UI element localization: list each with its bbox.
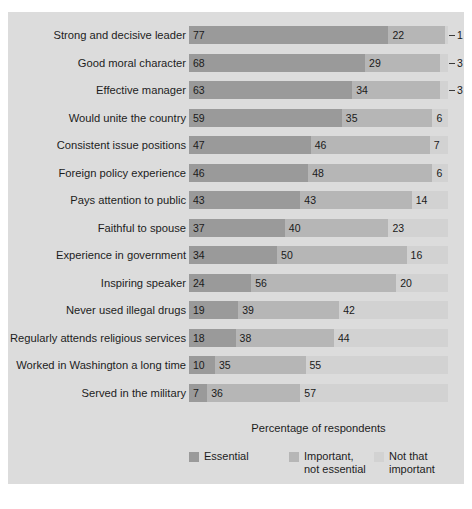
segment-value: 24 [193, 274, 205, 292]
segment-not-important: 42 [339, 301, 448, 319]
segment-important: 36 [207, 384, 300, 402]
segment-value-outside: 3 [457, 54, 463, 72]
segment-essential: 43 [189, 191, 300, 209]
legend-item: Not that important [374, 450, 435, 476]
segment-value: 22 [392, 26, 404, 44]
segment-not-important: 20 [396, 274, 448, 292]
row-label: Would unite the country [8, 109, 186, 127]
chart-row: Strong and decisive leader77221 [8, 26, 464, 54]
row-label: Consistent issue positions [8, 136, 186, 154]
segment-value: 34 [356, 81, 368, 99]
chart-row: Worked in Washington a long time103555 [8, 356, 464, 384]
segment-essential: 10 [189, 356, 215, 374]
segment-essential: 24 [189, 274, 251, 292]
legend-label: Essential [204, 450, 249, 463]
segment-not-important: 44 [334, 329, 448, 347]
chart-row: Faithful to spouse374023 [8, 219, 464, 247]
stacked-bar: 434314 [189, 191, 448, 209]
segment-value: 48 [312, 164, 324, 182]
segment-important: 43 [300, 191, 411, 209]
chart-panel: Strong and decisive leader77221Good mora… [8, 12, 464, 484]
chart-row: Effective manager63343 [8, 81, 464, 109]
segment-value: 38 [240, 329, 252, 347]
segment-value: 6 [436, 109, 442, 127]
chart-row: Foreign policy experience46486 [8, 164, 464, 192]
segment-not-important [440, 81, 448, 99]
segment-value: 42 [343, 301, 355, 319]
segment-value: 10 [193, 356, 205, 374]
legend-swatch [289, 452, 299, 462]
segment-important: 29 [365, 54, 440, 72]
segment-value: 37 [193, 219, 205, 237]
segment-essential: 37 [189, 219, 285, 237]
segment-value: 19 [193, 301, 205, 319]
value-leader-line [449, 35, 455, 36]
segment-essential: 59 [189, 109, 342, 127]
segment-value: 35 [346, 109, 358, 127]
value-leader-line [449, 90, 455, 91]
segment-value: 39 [242, 301, 254, 319]
segment-value: 43 [193, 191, 205, 209]
row-label: Faithful to spouse [8, 219, 186, 237]
segment-value: 18 [193, 329, 205, 347]
segment-important: 22 [388, 26, 445, 44]
segment-value: 50 [281, 246, 293, 264]
segment-value: 46 [193, 164, 205, 182]
segment-not-important [445, 26, 448, 44]
segment-value: 7 [434, 136, 440, 154]
chart-row: Served in the military73657 [8, 384, 464, 412]
stacked-bar: 6334 [189, 81, 448, 99]
segment-value: 56 [255, 274, 267, 292]
row-label: Worked in Washington a long time [8, 356, 186, 374]
segment-value: 47 [193, 136, 205, 154]
segment-value: 63 [193, 81, 205, 99]
segment-value: 59 [193, 109, 205, 127]
stacked-bar: 59356 [189, 109, 448, 127]
segment-value-outside: 3 [457, 81, 463, 99]
segment-important: 50 [277, 246, 407, 264]
segment-essential: 77 [189, 26, 388, 44]
segment-value: 34 [193, 246, 205, 264]
segment-important: 34 [352, 81, 440, 99]
row-label: Experience in government [8, 246, 186, 264]
row-label: Good moral character [8, 54, 186, 72]
segment-value: 23 [392, 219, 404, 237]
segment-essential: 47 [189, 136, 311, 154]
chart-row: Pays attention to public434314 [8, 191, 464, 219]
segment-important: 40 [285, 219, 389, 237]
segment-essential: 63 [189, 81, 352, 99]
row-label: Regularly attends religious services [8, 329, 186, 347]
legend-label: Important, not essential [304, 450, 366, 476]
segment-important: 39 [238, 301, 339, 319]
legend-swatch [189, 452, 199, 462]
segment-not-important: 55 [306, 356, 448, 374]
legend-swatch [374, 452, 384, 462]
row-label: Never used illegal drugs [8, 301, 186, 319]
segment-essential: 46 [189, 164, 308, 182]
segment-essential: 34 [189, 246, 277, 264]
stacked-bar: 73657 [189, 384, 448, 402]
segment-value-outside: 1 [457, 26, 463, 44]
stacked-bar: 103555 [189, 356, 448, 374]
stacked-bar: 47467 [189, 136, 448, 154]
row-label: Foreign policy experience [8, 164, 186, 182]
chart-row: Good moral character68293 [8, 54, 464, 82]
segment-important: 35 [342, 109, 433, 127]
row-label: Inspiring speaker [8, 274, 186, 292]
stacked-bar: 193942 [189, 301, 448, 319]
segment-value: 44 [338, 329, 350, 347]
stacked-bar: 46486 [189, 164, 448, 182]
legend-item: Important, not essential [289, 450, 366, 476]
row-label: Effective manager [8, 81, 186, 99]
segment-value: 36 [211, 384, 223, 402]
segment-important: 46 [311, 136, 430, 154]
segment-value: 7 [193, 384, 199, 402]
chart-row: Inspiring speaker245620 [8, 274, 464, 302]
segment-value: 16 [411, 246, 423, 264]
row-label: Served in the military [8, 384, 186, 402]
segment-value: 55 [310, 356, 322, 374]
segment-not-important: 14 [412, 191, 448, 209]
segment-not-important [440, 54, 448, 72]
segment-not-important: 7 [430, 136, 448, 154]
chart-legend: EssentialImportant, not essentialNot tha… [189, 450, 464, 484]
